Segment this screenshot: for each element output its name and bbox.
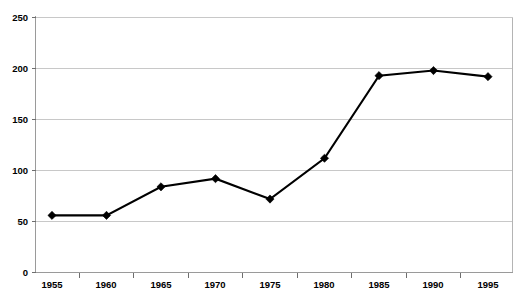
y-tick-label-0: 0 bbox=[23, 267, 28, 278]
x-tick-label-1965: 1965 bbox=[150, 279, 172, 290]
y-tick-label-250: 250 bbox=[12, 12, 28, 23]
x-axis-tick-labels: 1955 1960 1965 1970 1975 1980 1985 1990 … bbox=[41, 279, 499, 290]
x-tick-label-1970: 1970 bbox=[204, 279, 225, 290]
y-tick-label-50: 50 bbox=[17, 216, 28, 227]
chart-caption bbox=[18, 295, 418, 301]
x-tick-label-1980: 1980 bbox=[313, 279, 334, 290]
y-tick-label-200: 200 bbox=[12, 63, 28, 74]
x-tick-label-1955: 1955 bbox=[41, 279, 63, 290]
x-tick-label-1995: 1995 bbox=[477, 279, 499, 290]
chart-plot-area: 250 200 150 100 50 0 1955 1960 1965 1970… bbox=[0, 0, 521, 301]
plot-panel-background bbox=[36, 18, 513, 273]
x-tick-label-1960: 1960 bbox=[95, 279, 116, 290]
x-tick-marks bbox=[79, 273, 461, 278]
y-tick-label-100: 100 bbox=[12, 165, 28, 176]
y-axis-tick-labels: 250 200 150 100 50 0 bbox=[12, 12, 28, 278]
x-tick-label-1990: 1990 bbox=[422, 279, 443, 290]
y-tick-label-150: 150 bbox=[12, 114, 28, 125]
x-tick-label-1985: 1985 bbox=[368, 279, 390, 290]
x-tick-label-1975: 1975 bbox=[259, 279, 281, 290]
line-chart-figure: 250 200 150 100 50 0 1955 1960 1965 1970… bbox=[0, 0, 521, 301]
